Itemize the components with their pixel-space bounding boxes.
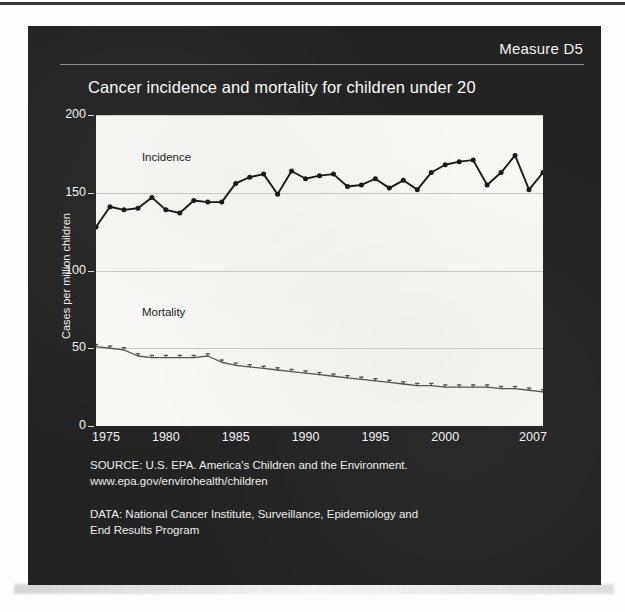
data-point [317,173,322,178]
data-point [303,176,308,181]
data-point [415,187,420,192]
y-axis-tick-group: 050100150200 [28,115,92,426]
data-point [275,192,280,197]
data-point [471,158,476,163]
data-point [219,200,224,205]
data-line-2: End Results Program [90,524,199,536]
source-line-1: SOURCE: U.S. EPA. America's Children and… [90,459,408,471]
data-point [527,187,532,192]
data-point [499,170,504,175]
data-point [387,186,392,191]
page-bottom-edge [14,584,614,594]
footnotes: SOURCE: U.S. EPA. America's Children and… [90,458,560,538]
data-point [443,162,448,167]
data-point [401,178,406,183]
data-point [513,153,518,158]
data-point [331,172,336,177]
data-point [247,175,252,180]
y-axis-tick-150: 150 [65,185,86,199]
data-point [135,206,140,211]
x-axis-tick-1985: 1985 [222,430,250,444]
data-point [359,182,364,187]
plot-area: Incidence Mortality [96,115,543,426]
data-point [107,204,112,209]
y-axis-tick-200: 200 [65,107,86,121]
data-point [191,198,196,203]
source-line-2: www.epa.gov/envirohealth/children [90,475,268,487]
data-point [345,184,350,189]
data-point [485,182,490,187]
plot-wrapper: Incidence Mortality [96,115,543,426]
y-axis-tick-mark-150 [88,193,94,194]
data-point [261,172,266,177]
x-axis-tick-1990: 1990 [292,430,320,444]
page-top-rule [0,2,625,5]
data-note: DATA: National Cancer Institute, Surveil… [90,507,560,538]
y-axis-tick-0: 0 [79,418,86,432]
y-axis-tick-mark-50 [88,348,94,349]
measure-label: Measure D5 [499,40,583,57]
data-point [457,159,462,164]
data-point [149,195,154,200]
series-line-mortality [96,347,543,392]
data-point [233,181,238,186]
y-axis-tick-mark-0 [88,426,94,427]
series-label-mortality: Mortality [142,306,185,318]
data-line-1: DATA: National Cancer Institute, Surveil… [90,508,418,520]
data-point [429,170,434,175]
x-axis-tick-1980: 1980 [152,430,180,444]
data-point [177,210,182,215]
x-axis-tick-2000: 2000 [431,430,459,444]
x-axis-tick-2007: 2007 [519,430,547,444]
data-point [289,168,294,173]
x-axis-tick-1975: 1975 [92,430,120,444]
data-point [121,207,126,212]
data-point [373,176,378,181]
source-note: SOURCE: U.S. EPA. America's Children and… [90,458,560,489]
x-axis-tick-group: 1975198019851990199520002007 [96,430,543,450]
series-label-incidence: Incidence [142,151,191,163]
measure-divider [60,64,584,65]
figure-panel: Measure D5 Cancer incidence and mortalit… [28,26,601,585]
data-point [205,200,210,205]
y-axis-tick-100: 100 [65,263,86,277]
y-axis-tick-mark-100 [88,271,94,272]
y-axis-tick-50: 50 [72,340,86,354]
series-line-incidence [96,155,543,227]
chart-title: Cancer incidence and mortality for child… [88,78,476,97]
data-point [163,207,168,212]
x-axis-tick-1995: 1995 [361,430,389,444]
y-axis-tick-mark-200 [88,115,94,116]
